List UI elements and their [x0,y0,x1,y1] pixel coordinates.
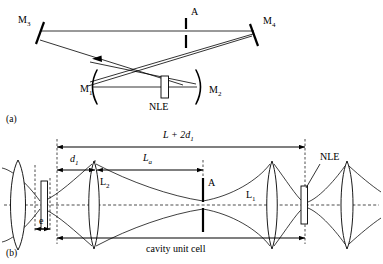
nonlinear-element-crystal [161,76,169,98]
label-mirror-m2: M2 [209,84,222,97]
panel-a-group: M3 M4 M1 M2 A NLE (a) [6,6,276,125]
panel-label-b: (b) [6,248,17,259]
label-aperture-a: A [191,6,199,17]
label-e: e [39,215,44,226]
lens-l2 [89,161,100,249]
figure-canvas: M3 M4 M1 M2 A NLE (a) [0,0,383,264]
label-lens-l1: L1 [246,189,256,202]
panel-label-a: (a) [6,114,17,125]
lens-rightmost [341,161,353,249]
label-aperture-a-b: A [208,177,216,188]
label-lens-l2: L2 [100,176,110,189]
label-nle-panel-a: NLE [149,101,168,112]
nle-leader-line [306,164,320,188]
mirror-m4 [250,24,258,46]
label-total-span: L + 2d1 [162,129,194,142]
lens-leftmost [11,160,26,250]
beam-path-cross-upper [90,34,253,82]
label-la: La [142,152,153,165]
label-cavity-unit-cell: cavity unit cell [146,243,206,254]
panel-b-group: L + 2d1 d1 La e cavity unit cell NLE [2,129,381,259]
label-d1: d1 [70,153,79,166]
lens-l1 [267,161,278,249]
optical-cavity-figure: M3 M4 M1 M2 A NLE (a) [0,0,383,264]
label-mirror-m3: M3 [18,14,31,27]
label-mirror-m4: M4 [263,15,276,28]
nonlinear-element-right [301,186,308,224]
label-nle-panel-b: NLE [320,151,339,162]
